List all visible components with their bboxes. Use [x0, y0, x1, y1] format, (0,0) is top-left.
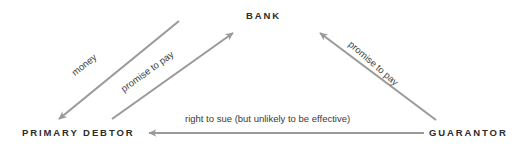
node-label-primary-debtor: PRIMARY DEBTOR: [22, 128, 134, 138]
node-label-guarantor: GUARANTOR: [429, 128, 508, 138]
arrow-promise-to-pay-guarantor: [320, 33, 436, 120]
diagram-canvas: BANK PRIMARY DEBTOR GUARANTOR money prom…: [0, 0, 526, 151]
node-label-bank: BANK: [246, 11, 281, 21]
edge-label-right-to-sue: right to sue (but unlikely to be effecti…: [185, 114, 350, 124]
